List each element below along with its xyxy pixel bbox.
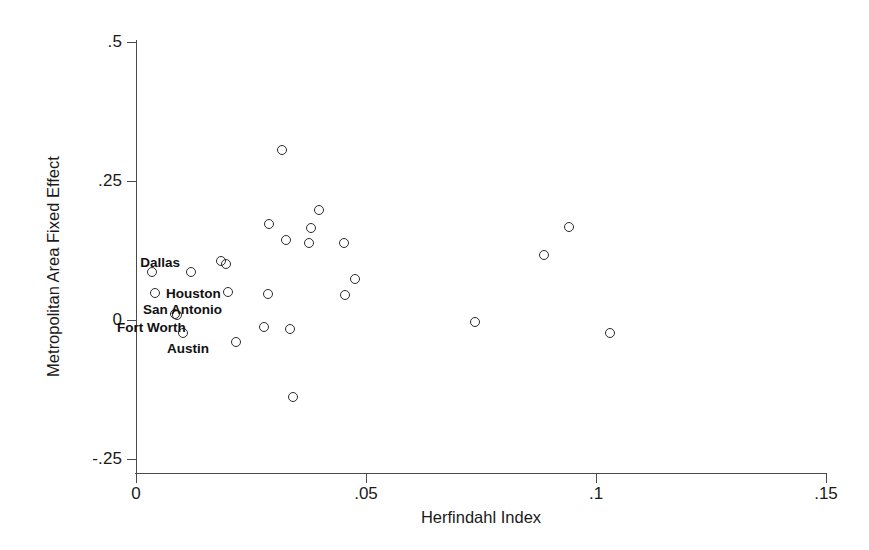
x-tick-label: .05 <box>354 484 378 504</box>
point-label-fort-worth: Fort Worth <box>117 320 186 335</box>
data-point <box>304 238 314 248</box>
data-point <box>539 250 549 260</box>
y-tick-label: .25 <box>98 171 122 191</box>
point-label-dallas: Dallas <box>140 255 180 270</box>
x-tick-label: 0 <box>131 484 140 504</box>
data-point <box>264 219 274 229</box>
point-label-austin: Austin <box>167 341 209 356</box>
data-point <box>231 337 241 347</box>
x-tick-label: .1 <box>589 484 603 504</box>
data-point <box>339 238 349 248</box>
point-label-san-antonio: San Antonio <box>143 302 222 317</box>
y-tick-label: .5 <box>108 32 122 52</box>
x-tick-label: .15 <box>814 484 838 504</box>
x-axis-title: Herfindahl Index <box>421 508 541 527</box>
data-point <box>223 287 233 297</box>
point-label-houston: Houston <box>166 286 221 301</box>
data-point <box>605 328 615 338</box>
data-point <box>340 290 350 300</box>
scatter-chart-figure: .5.250-.25 0.05.1.15 Metropolitan Area F… <box>0 0 869 550</box>
data-point <box>314 205 324 215</box>
data-point <box>564 222 574 232</box>
data-point <box>350 274 360 284</box>
data-point <box>470 317 480 327</box>
y-axis-line <box>136 40 137 474</box>
data-point <box>259 322 269 332</box>
data-point <box>263 289 273 299</box>
x-tick-mark <box>596 474 597 483</box>
data-point <box>186 267 196 277</box>
x-tick-mark <box>826 474 827 483</box>
data-point <box>285 324 295 334</box>
x-tick-mark <box>366 474 367 483</box>
y-tick-mark <box>127 42 136 43</box>
y-axis-title: Metropolitan Area Fixed Effect <box>44 122 63 412</box>
data-point <box>288 392 298 402</box>
data-point <box>277 145 287 155</box>
y-tick-mark <box>127 459 136 460</box>
data-point <box>306 223 316 233</box>
y-tick-label: -.25 <box>92 449 122 469</box>
data-point <box>281 235 291 245</box>
x-tick-mark <box>136 474 137 483</box>
y-tick-mark <box>127 181 136 182</box>
data-point-houston <box>150 288 160 298</box>
data-point <box>221 259 231 269</box>
x-axis-line <box>135 473 827 474</box>
